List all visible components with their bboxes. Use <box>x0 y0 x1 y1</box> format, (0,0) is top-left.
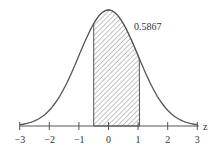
svg-text:3: 3 <box>195 134 200 145</box>
svg-text:−1: −1 <box>74 134 85 145</box>
svg-text:1: 1 <box>136 134 141 145</box>
shaded-area <box>94 10 140 126</box>
svg-text:−2: −2 <box>44 134 55 145</box>
svg-text:0: 0 <box>106 134 111 145</box>
svg-text:−3: −3 <box>15 134 26 145</box>
normal-curve-chart: −3−2−10123 z 0.5867 <box>0 0 217 161</box>
area-annotation: 0.5867 <box>134 21 162 32</box>
svg-text:2: 2 <box>165 134 170 145</box>
x-axis-label: z <box>203 121 208 132</box>
